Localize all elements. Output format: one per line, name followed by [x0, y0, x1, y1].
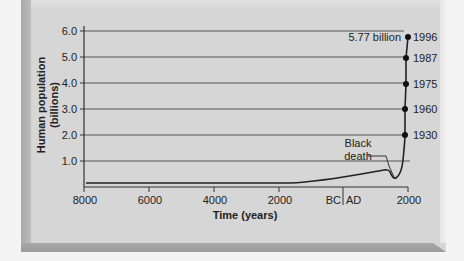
- x-axis-title: Time (years): [213, 209, 278, 221]
- label-1975: 1975: [413, 78, 437, 90]
- y-tick-3: 3.0: [62, 103, 77, 115]
- svg-text:(billions): (billions): [48, 82, 60, 128]
- y-tick-5: 5.0: [62, 51, 77, 63]
- x-tick-bc: BC: [326, 194, 341, 206]
- annotation-black-death-line1: Black: [345, 137, 372, 149]
- label-1930: 1930: [413, 129, 437, 141]
- x-tick-4000: 4000: [203, 194, 227, 206]
- x-tick-2000-bc: 2000: [268, 194, 292, 206]
- y-axis-title: Human population (billions): [35, 56, 60, 153]
- label-1987: 1987: [413, 52, 437, 64]
- marker-1960: [402, 106, 408, 112]
- x-tick-6000: 6000: [138, 194, 162, 206]
- annotation-black-death-line2: death: [344, 150, 372, 162]
- y-tick-4: 4.0: [62, 77, 77, 89]
- x-tick-8000: 8000: [73, 194, 97, 206]
- label-1960: 1960: [413, 103, 437, 115]
- population-chart: 6.0 5.0 4.0 3.0 2.0 1.0 8000 6000 4000 2…: [0, 0, 464, 261]
- label-1996: 1996: [413, 31, 437, 43]
- x-tick-ad: AD: [346, 194, 361, 206]
- x-tick-2000-ad: 2000: [397, 194, 421, 206]
- annotation-5-77-billion: 5.77 billion: [348, 31, 401, 43]
- marker-1930: [402, 132, 408, 138]
- y-tick-2: 2.0: [62, 129, 77, 141]
- marker-1987: [403, 55, 409, 61]
- y-tick-1: 1.0: [62, 155, 77, 167]
- marker-1996: [405, 34, 411, 40]
- svg-text:Human population: Human population: [35, 56, 47, 153]
- marker-1975: [403, 81, 409, 87]
- y-tick-6: 6.0: [62, 25, 77, 37]
